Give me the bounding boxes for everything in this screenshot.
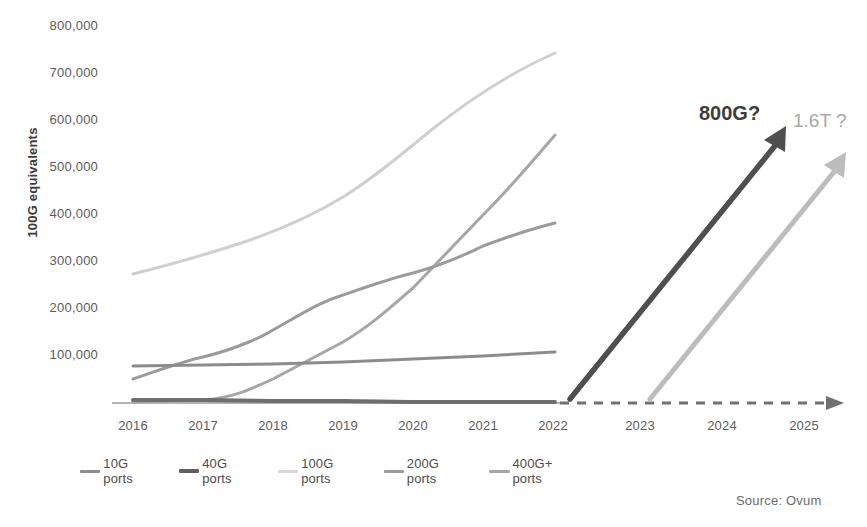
chart-legend: 10G ports 40G ports 100G ports 200G port… <box>80 456 580 486</box>
legend-swatch-400gplus-ports <box>489 470 509 473</box>
legend-label-100g-ports: 100G ports <box>301 456 361 486</box>
legend-swatch-100g-ports <box>278 470 298 473</box>
series-line-40g-ports <box>133 400 555 402</box>
legend-item-400gplus-ports[interactable]: 400G+ ports <box>489 456 580 486</box>
projection-arrow-16t <box>650 167 838 399</box>
legend-swatch-200g-ports <box>384 470 404 473</box>
annotation-16t: 1.6T ? <box>793 110 847 132</box>
legend-item-40g-ports[interactable]: 40G ports <box>179 456 256 486</box>
series-line-100g-ports <box>133 53 555 274</box>
legend-item-100g-ports[interactable]: 100G ports <box>278 456 362 486</box>
source-note: Source: Ovum <box>736 493 822 508</box>
legend-label-400gplus-ports: 400G+ ports <box>513 456 580 486</box>
annotation-800g: 800G? <box>699 102 760 125</box>
chart-plot-area <box>0 0 867 527</box>
legend-label-40g-ports: 40G ports <box>202 456 256 486</box>
legend-item-10g-ports[interactable]: 10G ports <box>80 456 157 486</box>
projection-arrow-800g <box>570 142 778 399</box>
chart-container: 100G equivalents 800,000 700,000 600,000… <box>0 0 867 527</box>
x-axis-arrowhead-icon <box>826 396 844 410</box>
legend-label-10g-ports: 10G ports <box>103 456 157 486</box>
legend-item-200g-ports[interactable]: 200G ports <box>384 456 468 486</box>
legend-swatch-40g-ports <box>179 469 199 473</box>
legend-label-200g-ports: 200G ports <box>407 456 467 486</box>
legend-swatch-10g-ports <box>80 470 100 473</box>
